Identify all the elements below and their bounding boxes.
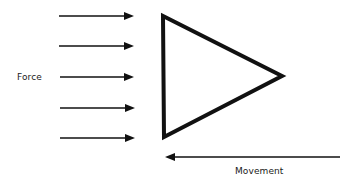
movement-arrow <box>165 153 340 161</box>
arrowhead-left-icon <box>165 153 175 161</box>
arrowhead-right-icon <box>125 104 135 112</box>
force-arrows <box>59 12 135 142</box>
triangle-object <box>163 16 282 137</box>
arrowhead-right-icon <box>124 12 134 20</box>
arrowhead-right-icon <box>124 42 134 50</box>
force-diagram <box>0 0 357 184</box>
movement-label: Movement <box>235 166 283 176</box>
arrowhead-right-icon <box>125 134 135 142</box>
force-label: Force <box>17 72 42 82</box>
arrowhead-right-icon <box>124 73 134 81</box>
